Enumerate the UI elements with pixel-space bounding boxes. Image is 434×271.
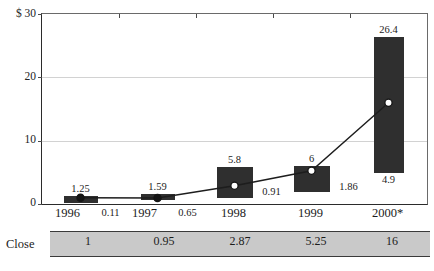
y-tick-label-20: 20 <box>2 70 36 82</box>
table-cell-2000: 16 <box>354 234 430 249</box>
table-cell-1999: 5.25 <box>278 234 354 249</box>
low-label-1998: 0.91 <box>255 186 289 197</box>
chart-title <box>120 0 420 2</box>
high-label-1996: 1.25 <box>51 183 111 194</box>
x-tick-label-1996: 1996 <box>29 206 106 221</box>
high-label-1999: 6 <box>282 153 342 164</box>
y-tick-label-10: 10 <box>2 133 36 145</box>
table-row-label-close: Close <box>6 237 48 252</box>
close-marker-1996 <box>77 194 84 201</box>
table-cell-1997: 0.95 <box>126 234 202 249</box>
x-tick-label-2000: 2000* <box>349 206 426 221</box>
stock-price-range-chart: $ 30 20 10 0 1.25 1.59 5.8 <box>0 0 434 271</box>
x-axis-labels: 1996 1997 1998 1999 2000* <box>41 206 426 224</box>
high-label-1997: 1.59 <box>128 181 188 192</box>
close-marker-1997 <box>154 194 161 201</box>
chart-footnote <box>52 263 382 271</box>
table-cell-1996: 1 <box>50 234 126 249</box>
plot-area: 1.25 1.59 5.8 6 26.4 0.91 1.86 4.9 <box>41 13 428 205</box>
x-tick-label-1999: 1999 <box>272 206 349 221</box>
low-label-2000: 4.9 <box>359 174 419 185</box>
close-marker-1999 <box>308 167 315 174</box>
high-label-1998: 5.8 <box>205 154 265 165</box>
x-tick-label-1997: 1997 <box>106 206 183 221</box>
x-tick-label-1998: 1998 <box>195 206 272 221</box>
close-marker-2000* <box>385 99 392 106</box>
close-data-table: Close 1 0.95 2.87 5.25 16 <box>0 229 434 259</box>
y-tick-mark-0 <box>38 204 42 205</box>
y-tick-label-30: $ 30 <box>2 7 36 19</box>
table-cell-1998: 2.87 <box>202 234 278 249</box>
high-label-2000: 26.4 <box>359 24 419 35</box>
y-axis-labels: $ 30 20 10 0 <box>0 0 36 210</box>
close-marker-1998 <box>231 182 238 189</box>
